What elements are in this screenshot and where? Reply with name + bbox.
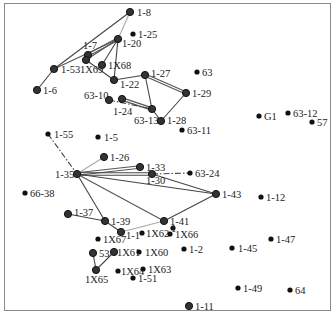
node-dot-icon [114, 35, 121, 42]
node-dot-icon [118, 95, 125, 102]
node-label: 63-11 [187, 125, 211, 136]
node-label: 53 [99, 248, 110, 259]
node-dot-icon [98, 61, 105, 68]
node-1-45: 1-45 [229, 243, 257, 254]
node-label: 1-55 [54, 129, 73, 140]
node-66-38: 66-38 [22, 188, 54, 199]
node-1-8: 1-8 [126, 7, 151, 18]
node-label: 63-10 [84, 90, 109, 101]
node-1X60: 1X60 [136, 247, 168, 258]
node-dot-icon [179, 127, 184, 132]
node-label: 63-24 [195, 168, 220, 179]
node-dot-icon [185, 302, 192, 309]
node-1-12: 1-12 [258, 192, 285, 203]
node-1X61: 1X61 [110, 247, 140, 258]
node-1-27: 1-27 [141, 68, 170, 79]
node-dot-icon [92, 266, 99, 273]
edge-1-27-63-13 [145, 75, 152, 109]
node-dot-icon [82, 56, 89, 63]
node-63-11: 63-11 [179, 125, 211, 136]
node-1-29: 1-29 [182, 88, 211, 99]
node-dot-icon [157, 117, 164, 124]
node-53: 53 [89, 248, 109, 259]
node-dot-icon [235, 285, 240, 290]
node-label: 63-12 [293, 108, 318, 119]
node-1-37: 1-37 [64, 207, 93, 218]
node-label: 1-12 [266, 192, 285, 203]
node-dot-icon [126, 8, 133, 15]
node-dot-icon [229, 245, 234, 250]
node-1-28: 1-28 [157, 115, 186, 126]
node-1-53: 1-53 [50, 64, 80, 75]
node-label: 1-27 [151, 68, 170, 79]
node-dot-icon [285, 110, 290, 115]
node-dot-icon [73, 170, 80, 177]
node-label: 1-7 [83, 40, 97, 51]
node-label: 1-47 [276, 234, 295, 245]
node-dot-icon [95, 134, 100, 139]
node-63-12: 63-12 [285, 108, 317, 119]
node-dot-icon [194, 69, 199, 74]
node-dot-icon [33, 86, 40, 93]
node-dot-icon [141, 71, 148, 78]
node-label: 1-30 [146, 175, 165, 186]
node-label: 1-49 [243, 283, 262, 294]
node-1-55: 1-55 [45, 129, 73, 140]
node-dot-icon [50, 65, 57, 72]
node-label: 1-20 [122, 38, 141, 49]
node-dot-icon [212, 190, 219, 197]
node-label: 1-45 [238, 243, 257, 254]
node-dot-icon [64, 210, 71, 217]
node-dot-icon [287, 287, 292, 292]
node-dot-icon [268, 236, 273, 241]
node-layer: 1-81-251-201-71X691X681-531-61-221-27631… [22, 7, 327, 312]
node-label: 63-13 [134, 115, 159, 126]
node-label: 1-6 [43, 85, 57, 96]
node-label: 1-37 [74, 207, 93, 218]
node-dot-icon [140, 266, 145, 271]
node-dot-icon [115, 268, 120, 273]
node-dot-icon [256, 113, 261, 118]
node-dot-icon [139, 230, 144, 235]
node-64: 64 [287, 285, 306, 296]
node-label: 1X60 [145, 247, 168, 258]
node-63-24: 63-24 [187, 168, 220, 179]
node-1-2: 1-2 [181, 244, 203, 255]
node-dot-icon [101, 217, 108, 224]
node-1-26: 1-26 [100, 152, 129, 163]
node-label: 1X66 [175, 229, 198, 240]
node-G1: G1 [256, 111, 276, 122]
node-63: 63 [194, 67, 212, 78]
edge-1-55-1-35 [48, 134, 77, 174]
node-dot-icon [100, 153, 107, 160]
node-1X62: 1X62 [139, 228, 169, 239]
node-dot-icon [110, 76, 117, 83]
node-label: 64 [295, 285, 306, 296]
node-label: 1X65 [85, 274, 108, 285]
node-dot-icon [130, 275, 135, 280]
node-dot-icon [45, 131, 50, 136]
node-label: 1-43 [222, 189, 241, 200]
node-1-24: 1-24 [113, 95, 133, 117]
node-dot-icon [130, 31, 135, 36]
node-dot-icon [136, 249, 141, 254]
node-label: 1-35 [55, 169, 74, 180]
node-label: 63 [202, 67, 213, 78]
network-graph: 1-81-251-201-71X691X681-531-61-221-27631… [0, 0, 335, 318]
node-label: 1-53 [61, 64, 80, 75]
node-label: 1-28 [167, 115, 186, 126]
node-label: 1-8 [137, 7, 151, 18]
node-dot-icon [182, 89, 189, 96]
node-label: 57 [317, 117, 328, 128]
node-dot-icon [22, 190, 27, 195]
edge-1-30-63-24 [152, 173, 190, 174]
node-label: 1X62 [146, 228, 169, 239]
node-dot-icon [148, 105, 155, 112]
node-1-22: 1-22 [110, 76, 139, 90]
node-label: 1X67 [103, 234, 126, 245]
node-label: 1-11 [195, 301, 214, 312]
node-label: 1-2 [189, 244, 203, 255]
node-1-47: 1-47 [268, 234, 295, 245]
node-dot-icon [95, 236, 100, 241]
node-1X67: 1X67 [95, 234, 126, 245]
